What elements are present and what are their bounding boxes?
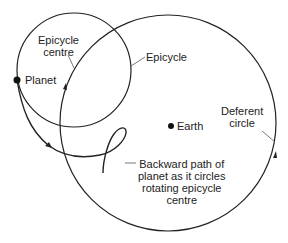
backward-path-label: Backward path of planet as it circles ro… — [138, 158, 225, 206]
epicycle-centre-label: Epicycle centre — [38, 34, 79, 58]
label-line: planet as it circles — [138, 170, 225, 182]
epicycle-label: Epicycle — [146, 51, 187, 63]
label-line: Backward path of — [138, 158, 225, 170]
deferent-leader — [262, 131, 275, 142]
label-line: Epicycle — [38, 34, 79, 46]
planet-dot — [14, 77, 21, 84]
label-line: circle — [221, 117, 263, 129]
deferent-arrow-left — [63, 83, 67, 90]
label-line: centre — [38, 46, 79, 58]
deferent-label: Deferent circle — [221, 105, 263, 129]
label-line: rotating epicycle — [138, 182, 225, 194]
deferent-arrow-right — [273, 151, 277, 158]
earth-dot — [168, 123, 174, 129]
planet-label: Planet — [25, 74, 56, 86]
label-line: Deferent — [221, 105, 263, 117]
earth-label: Earth — [177, 120, 203, 132]
label-line: centre — [138, 194, 225, 206]
epicycle-leader — [131, 57, 145, 66]
